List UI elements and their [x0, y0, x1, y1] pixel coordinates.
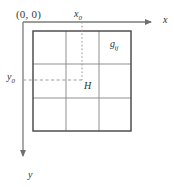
- x0-label-subscript: 0: [78, 14, 82, 22]
- coordinate-grid-figure: (0, 0) x0 x y0 y H gij: [0, 0, 174, 187]
- x0-label: x0: [74, 9, 82, 19]
- x-axis-label: x: [163, 15, 167, 25]
- y-axis-label: y: [28, 170, 32, 180]
- cell-gij-label: gij: [110, 39, 119, 49]
- y0-label: y0: [7, 72, 15, 82]
- figure-canvas: [0, 0, 174, 187]
- cell-gij-subscript: ij: [115, 44, 119, 52]
- origin-label: (0, 0): [16, 9, 41, 20]
- y0-label-subscript: 0: [11, 77, 15, 85]
- point-h-label: H: [84, 81, 91, 91]
